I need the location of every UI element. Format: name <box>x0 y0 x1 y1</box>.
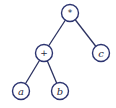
node-label-b: b <box>57 86 63 97</box>
node-label-a: a <box>18 86 24 97</box>
node-c: c <box>93 45 110 62</box>
node-b: b <box>52 83 69 100</box>
edges <box>21 13 101 91</box>
expression-tree: * + c a b <box>0 0 116 108</box>
node-label-multiply: * <box>68 8 73 18</box>
node-plus: + <box>36 45 53 62</box>
node-a: a <box>13 83 30 100</box>
node-label-c: c <box>98 48 104 59</box>
node-label-plus: + <box>40 48 48 58</box>
node-root: * <box>62 5 79 22</box>
